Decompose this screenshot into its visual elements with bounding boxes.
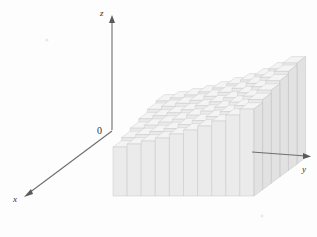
origin-label: 0 [97,125,102,136]
riemann-sum-figure: z x 0 y [0,0,317,237]
column-r2-c9-side [280,74,289,176]
x-axis-label: x [12,194,17,204]
column-r3-c9-side [271,84,280,183]
column-r5-c2-front [141,141,155,196]
column-r5-c1-front [127,144,141,196]
column-r5-c5-front [184,130,198,196]
column-r4-c9-side [263,93,272,189]
column-r5-c8-front [226,115,240,196]
y-axis-label: y [301,164,306,174]
column-r5-c3-front [155,138,169,196]
column-r5-c6-front [198,126,212,196]
column-r5-c0-front [113,147,127,196]
column-r5-c4-front [169,134,183,196]
column-r5-c9-side [254,103,263,196]
paper-speck [261,215,264,218]
z-axis-label: z [99,8,104,18]
column-r5-c7-front [212,121,226,196]
column-r0-c9-side [297,57,306,164]
figure-canvas: z x 0 y [0,0,317,237]
column-r5-c9-front [240,109,254,196]
paper-speck [45,38,48,41]
